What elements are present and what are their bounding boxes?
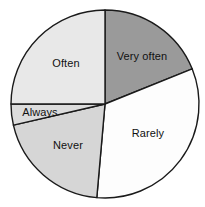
pie-chart-figure: Very oftenRarelyNeverAlwaysOften — [0, 0, 205, 207]
pie-chart-svg: Very oftenRarelyNeverAlwaysOften — [0, 0, 205, 207]
pie-slice-label-rarely: Rarely — [132, 127, 165, 139]
pie-slice-label-often: Often — [52, 57, 79, 69]
pie-slice-label-always: Always — [22, 106, 58, 118]
pie-slice-label-very-often: Very often — [117, 50, 168, 62]
pie-slice-label-never: Never — [53, 139, 83, 151]
